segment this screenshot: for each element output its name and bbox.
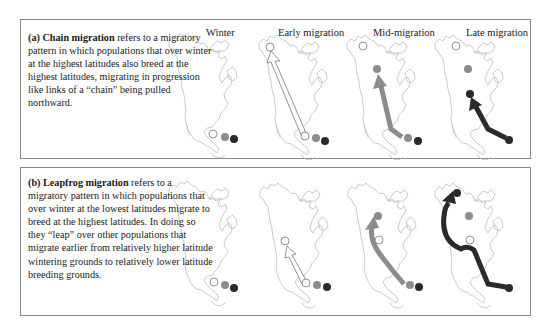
chain-migration-term: Chain migration xyxy=(42,32,114,43)
chain-migration-description: (a) Chain migration refers to a migrator… xyxy=(28,31,213,110)
winter-grey-population xyxy=(221,133,229,141)
early-migration-arrow-b xyxy=(285,246,307,284)
mid-migration-arrow xyxy=(373,74,402,137)
panel-b-label: (b) xyxy=(28,177,40,188)
winter-black-population xyxy=(230,135,238,143)
panel-a-label: (a) xyxy=(28,32,40,43)
chain-migration-panel: (a) Chain migration refers to a migrator… xyxy=(20,19,531,159)
leapfrog-migration-term: Leapfrog migration xyxy=(43,177,129,188)
chain-migration-text: refers to a migratory pattern in which p… xyxy=(28,32,211,108)
leapfrog-migration-text: refers to a migratory pattern in which p… xyxy=(28,177,213,280)
leapfrog-migration-panel: (b) Leapfrog migration refers to a migra… xyxy=(20,167,531,316)
winter-open-population xyxy=(209,130,217,138)
leapfrog-migration-description: (b) Leapfrog migration refers to a migra… xyxy=(28,176,213,281)
late-migration-arrow xyxy=(469,97,506,138)
